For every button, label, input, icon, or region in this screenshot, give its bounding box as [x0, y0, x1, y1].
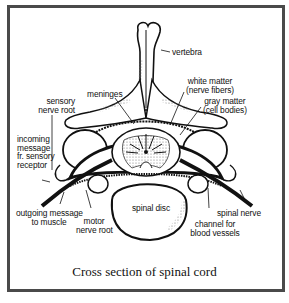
label-gray-matter: gray matter (cell bodies) [203, 97, 247, 114]
label-spinal-nerve: spinal nerve [217, 209, 261, 218]
label-channel-blood-vessels: channel for blood vessels [188, 220, 242, 237]
label-meninges: meninges [87, 90, 123, 99]
figure-caption: Cross section of spinal cord [0, 264, 289, 280]
label-sensory-nerve-root: sensory nerve root [27, 97, 75, 114]
label-outgoing-message: outgoing message to muscle [16, 209, 82, 226]
label-incoming-message: incoming message fr. sensory receptor [17, 135, 55, 169]
label-motor-nerve-root: motor nerve root [76, 217, 112, 234]
label-spinal-disc: spinal disc [132, 204, 170, 213]
label-vertebra: vertebra [172, 48, 202, 57]
label-white-matter: white matter (nerve fibers) [186, 77, 234, 94]
